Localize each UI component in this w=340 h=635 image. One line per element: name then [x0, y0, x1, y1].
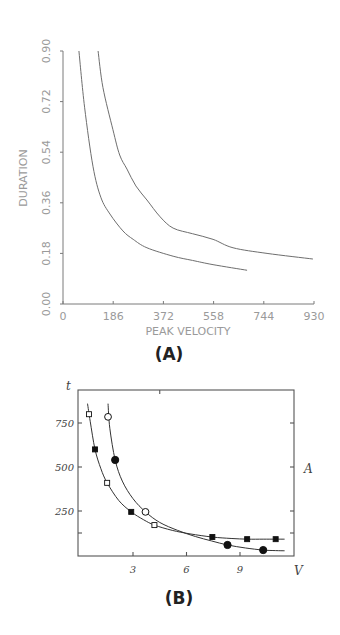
chart-b-square-marker: [210, 535, 215, 540]
chart-b-fit-line: [88, 404, 285, 540]
chart-a-x-tick: 372: [153, 310, 174, 323]
chart-a-y-axis-label: DURATION: [17, 149, 30, 206]
chart-a-curves: [79, 51, 313, 270]
chart-a-y-tick: 0.00: [40, 292, 53, 317]
chart-b-x-axis-label: V: [294, 564, 304, 578]
chart-b-y-tick: 250: [54, 506, 75, 517]
chart-a-x-tick: 744: [253, 310, 274, 323]
chart-a-x-tick: 186: [103, 310, 124, 323]
chart-a-y-tick: 0.90: [40, 39, 53, 64]
chart-b-circle-marker: [112, 456, 119, 463]
chart-b-series: [86, 404, 284, 554]
chart-a-x-axis-label: PEAK VELOCITY: [145, 325, 230, 338]
chart-b-square-marker: [105, 480, 110, 485]
chart-b-circle-marker: [224, 541, 231, 548]
chart-a-series-line: [98, 51, 313, 259]
chart-a-y-tick: 0.72: [40, 89, 53, 114]
chart-a-axes: 01863725587449300.000.180.360.540.720.90: [40, 39, 325, 323]
chart-b-circle-marker: [260, 546, 267, 553]
chart-b-y-axis-label: t: [66, 379, 71, 393]
chart-a-x-tick: 0: [60, 310, 67, 323]
panel-label-a: (A): [155, 344, 184, 364]
chart-b: 369250500750 t V A (B): [54, 379, 313, 608]
chart-a-x-tick: 558: [203, 310, 224, 323]
chart-a-series-line: [79, 51, 247, 270]
chart-a-y-tick: 0.54: [40, 140, 53, 165]
chart-b-square-marker: [93, 447, 98, 452]
figure: 01863725587449300.000.180.360.540.720.90…: [0, 0, 340, 635]
chart-b-square-marker: [129, 509, 134, 514]
chart-b-y-tick: 750: [55, 418, 75, 429]
chart-b-x-tick: 6: [183, 564, 190, 575]
chart-b-x-tick: 3: [130, 564, 136, 575]
chart-a-x-tick: 930: [304, 310, 325, 323]
chart-b-square-marker: [273, 537, 278, 542]
chart-b-circle-marker: [105, 413, 112, 420]
chart-b-x-tick: 9: [237, 564, 244, 575]
chart-a: 01863725587449300.000.180.360.540.720.90…: [17, 39, 325, 364]
chart-b-circle-marker: [142, 508, 149, 515]
chart-b-square-marker: [152, 523, 157, 528]
chart-b-square-marker: [86, 412, 91, 417]
panel-label-b: (B): [165, 588, 194, 608]
chart-b-square-marker: [245, 537, 250, 542]
chart-b-right-label: A: [303, 462, 313, 476]
chart-a-y-tick: 0.18: [40, 241, 53, 266]
chart-b-y-tick: 500: [55, 462, 75, 473]
chart-b-fit-line: [108, 404, 285, 551]
chart-a-y-tick: 0.36: [40, 191, 53, 216]
